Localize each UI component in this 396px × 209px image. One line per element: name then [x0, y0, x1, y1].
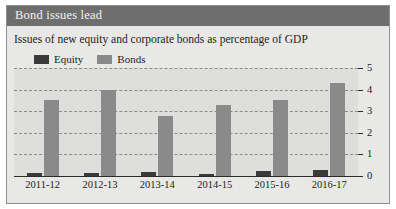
- y-axis-label: 3: [367, 106, 372, 117]
- bar-bonds: [158, 116, 173, 176]
- legend-swatch-icon: [97, 55, 112, 64]
- y-axis-label: 1: [367, 149, 372, 160]
- y-axis-label: 4: [367, 84, 372, 95]
- legend-label: Bonds: [117, 53, 145, 65]
- bar-bonds: [330, 83, 345, 176]
- legend-label: Equity: [54, 53, 83, 65]
- bars-layer: [14, 68, 358, 176]
- legend-swatch-icon: [34, 55, 49, 64]
- y-axis-label: 5: [367, 63, 372, 74]
- bar-group: [243, 68, 300, 176]
- bar-group: [71, 68, 128, 176]
- y-axis-label: 0: [367, 171, 372, 182]
- y-axis-tick: [358, 133, 363, 134]
- bar-bonds: [101, 90, 116, 176]
- x-axis: 2011-122012-132013-142014-152015-162016-…: [14, 179, 358, 195]
- x-axis-label: 2015-16: [255, 179, 290, 190]
- y-axis: 012345: [358, 68, 388, 176]
- x-axis-label: 2014-15: [197, 179, 232, 190]
- bar-bonds: [216, 105, 231, 176]
- bar-group: [129, 68, 186, 176]
- y-axis-tick: [358, 154, 363, 155]
- x-axis-label: 2016-17: [312, 179, 347, 190]
- bar-group: [186, 68, 243, 176]
- plot-area: [14, 68, 358, 176]
- bar-group: [14, 68, 71, 176]
- bar-bonds: [273, 100, 288, 176]
- y-axis-tick: [358, 90, 363, 91]
- bar-group: [301, 68, 358, 176]
- y-axis-tick: [358, 111, 363, 112]
- y-axis-tick: [358, 68, 363, 69]
- chart-legend: EquityBonds: [34, 53, 145, 65]
- y-axis-label: 2: [367, 128, 372, 139]
- legend-item-equity: Equity: [34, 53, 83, 65]
- x-axis-line: [14, 176, 362, 177]
- y-axis-tick: [358, 176, 363, 177]
- chart-subtitle: Issues of new equity and corporate bonds…: [14, 33, 308, 45]
- bar-bonds: [44, 100, 59, 176]
- x-axis-label: 2013-14: [140, 179, 175, 190]
- x-axis-label: 2012-13: [83, 179, 118, 190]
- chart-figure: Bond issues lead Issues of new equity an…: [0, 0, 396, 209]
- x-axis-label: 2011-12: [25, 179, 60, 190]
- chart-title: Bond issues lead: [15, 8, 102, 23]
- title-bar: Bond issues lead: [7, 6, 389, 26]
- legend-item-bonds: Bonds: [97, 53, 145, 65]
